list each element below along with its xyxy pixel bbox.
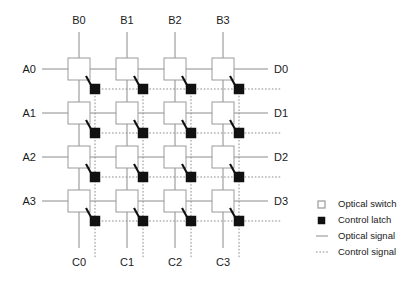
port-label-top-B0: B0 — [72, 14, 85, 26]
port-label-right-D0: D0 — [274, 63, 288, 75]
control-latch-0-1[interactable] — [138, 84, 148, 94]
control-latch-3-1[interactable] — [138, 216, 148, 226]
control-latch-3-2[interactable] — [186, 216, 196, 226]
port-label-top-B1: B1 — [120, 14, 133, 26]
control-latch-2-1[interactable] — [138, 172, 148, 182]
port-label-right-D2: D2 — [274, 151, 288, 163]
control-latch-0-2[interactable] — [186, 84, 196, 94]
port-label-left-A3: A3 — [23, 195, 36, 207]
port-label-right-D3: D3 — [274, 195, 288, 207]
legend-label-0: Optical switch — [338, 198, 397, 209]
diagram-canvas: B0B1B2B3C0C1C2C3A0A1A2A3D0D1D2D3 Optical… — [0, 0, 416, 292]
control-latch-1-1[interactable] — [138, 128, 148, 138]
control-latch-3-0[interactable] — [90, 216, 100, 226]
control-latch-3-3[interactable] — [234, 216, 244, 226]
port-label-right-D1: D1 — [274, 107, 288, 119]
port-label-left-A0: A0 — [23, 63, 36, 75]
legend-label-2: Optical signal — [338, 230, 395, 241]
control-latch-1-2[interactable] — [186, 128, 196, 138]
legend: Optical switchControl latchOptical signa… — [316, 198, 397, 257]
control-latch-0-0[interactable] — [90, 84, 100, 94]
port-label-bottom-C2: C2 — [168, 256, 182, 268]
control-latch-0-3[interactable] — [234, 84, 244, 94]
control-latch-1-3[interactable] — [234, 128, 244, 138]
port-label-bottom-C3: C3 — [216, 256, 230, 268]
optical-crossbar-diagram: B0B1B2B3C0C1C2C3A0A1A2A3D0D1D2D3 Optical… — [0, 0, 416, 292]
control-latch-1-0[interactable] — [90, 128, 100, 138]
port-label-top-B3: B3 — [216, 14, 229, 26]
legend-label-1: Control latch — [338, 214, 391, 225]
legend-label-3: Control signal — [338, 246, 396, 257]
port-label-layer: B0B1B2B3C0C1C2C3A0A1A2A3D0D1D2D3 — [23, 14, 289, 268]
control-latch-2-0[interactable] — [90, 172, 100, 182]
port-label-left-A1: A1 — [23, 107, 36, 119]
switch-swatch-icon — [318, 201, 325, 208]
port-label-bottom-C1: C1 — [120, 256, 134, 268]
control-latch-2-3[interactable] — [234, 172, 244, 182]
latch-swatch-icon — [318, 217, 325, 224]
port-label-bottom-C0: C0 — [72, 256, 86, 268]
port-label-top-B2: B2 — [168, 14, 181, 26]
port-label-left-A2: A2 — [23, 151, 36, 163]
control-latch-2-2[interactable] — [186, 172, 196, 182]
